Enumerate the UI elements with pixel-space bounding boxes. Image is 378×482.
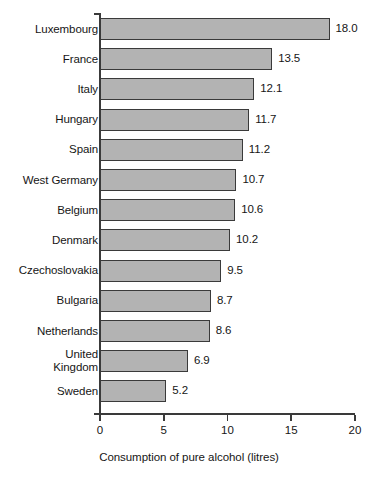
y-axis-top-cap bbox=[94, 13, 101, 15]
bar-value-label: 10.6 bbox=[241, 203, 263, 216]
bar-chart: LuxembourgFranceItalyHungarySpainWest Ge… bbox=[0, 0, 378, 482]
category-label: Bulgaria bbox=[0, 290, 98, 312]
category-label-line: Kingdom bbox=[53, 361, 98, 374]
x-tick bbox=[354, 415, 356, 421]
category-label: UnitedKingdom bbox=[0, 350, 98, 372]
category-label-line: France bbox=[63, 53, 98, 66]
category-label: Spain bbox=[0, 139, 98, 161]
category-label-line: West Germany bbox=[23, 174, 98, 187]
bar-value-label: 8.7 bbox=[217, 294, 233, 307]
category-label-line: United bbox=[65, 348, 98, 361]
category-label: Denmark bbox=[0, 229, 98, 251]
bar-value-label: 10.7 bbox=[242, 173, 264, 186]
category-label: Luxembourg bbox=[0, 18, 98, 40]
bar-value-label: 6.9 bbox=[194, 354, 210, 367]
bar bbox=[100, 229, 230, 251]
bar-value-label: 11.7 bbox=[255, 113, 276, 126]
bar-value-label: 13.5 bbox=[278, 52, 300, 65]
bar-value-label: 8.6 bbox=[216, 324, 232, 337]
x-tick-label: 5 bbox=[161, 424, 167, 437]
bar bbox=[100, 320, 210, 342]
bar-value-label: 9.5 bbox=[227, 264, 243, 277]
category-label: Hungary bbox=[0, 109, 98, 131]
category-label-line: Bulgaria bbox=[57, 294, 98, 307]
x-tick-label: 15 bbox=[285, 424, 298, 437]
category-label: West Germany bbox=[0, 169, 98, 191]
x-axis-title: Consumption of pure alcohol (litres) bbox=[0, 451, 378, 463]
category-label-line: Sweden bbox=[57, 385, 98, 398]
bar bbox=[100, 139, 243, 161]
x-tick bbox=[290, 415, 292, 421]
bar bbox=[100, 290, 211, 312]
category-label: Netherlands bbox=[0, 320, 98, 342]
category-label-line: Denmark bbox=[52, 234, 98, 247]
category-label: Italy bbox=[0, 78, 98, 100]
category-label-line: Italy bbox=[77, 83, 98, 96]
bar bbox=[100, 380, 166, 402]
x-tick-label: 10 bbox=[221, 424, 234, 437]
category-label: Sweden bbox=[0, 380, 98, 402]
category-label-line: Hungary bbox=[55, 113, 98, 126]
bar-value-label: 10.2 bbox=[236, 233, 258, 246]
x-tick bbox=[227, 415, 229, 421]
bar bbox=[100, 199, 235, 221]
bar-value-label: 11.2 bbox=[249, 143, 270, 156]
category-label-line: Luxembourg bbox=[35, 23, 98, 36]
category-label-line: Belgium bbox=[57, 204, 98, 217]
bar-value-label: 18.0 bbox=[336, 22, 358, 35]
category-label: Czechoslovakia bbox=[0, 260, 98, 282]
x-tick-label: 0 bbox=[97, 424, 103, 437]
bar bbox=[100, 260, 221, 282]
x-tick bbox=[163, 415, 165, 421]
category-label: Belgium bbox=[0, 199, 98, 221]
bar bbox=[100, 78, 254, 100]
category-label-line: Netherlands bbox=[37, 325, 98, 338]
category-label-line: Spain bbox=[69, 143, 98, 156]
bar-value-label: 5.2 bbox=[172, 384, 188, 397]
bar bbox=[100, 109, 249, 131]
bar-value-label: 12.1 bbox=[260, 82, 282, 95]
bar bbox=[100, 18, 330, 40]
category-label: France bbox=[0, 48, 98, 70]
bar bbox=[100, 350, 188, 372]
x-axis-line bbox=[94, 413, 355, 415]
bar bbox=[100, 169, 236, 191]
x-tick-label: 20 bbox=[349, 424, 362, 437]
category-label-line: Czechoslovakia bbox=[19, 264, 98, 277]
bar bbox=[100, 48, 272, 70]
x-tick bbox=[99, 415, 101, 421]
